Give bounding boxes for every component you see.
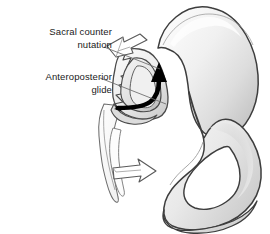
- anatomical-figure: Sacral counter nutation Anteroposterior …: [0, 0, 270, 234]
- ilium-wing: [158, 7, 258, 139]
- label-sacral-counter-nutation-line1: Sacral counter: [49, 26, 112, 37]
- label-anteroposterior-glide-line1: Anteroposterior: [46, 71, 112, 82]
- label-sacral-counter-nutation: Sacral counter nutation: [8, 26, 112, 51]
- label-sacral-counter-nutation-line2: nutation: [8, 39, 112, 52]
- label-anteroposterior-glide: Anteroposterior glide: [4, 71, 112, 96]
- label-anteroposterior-glide-line2: glide: [4, 84, 112, 97]
- ilium-group: [158, 7, 258, 139]
